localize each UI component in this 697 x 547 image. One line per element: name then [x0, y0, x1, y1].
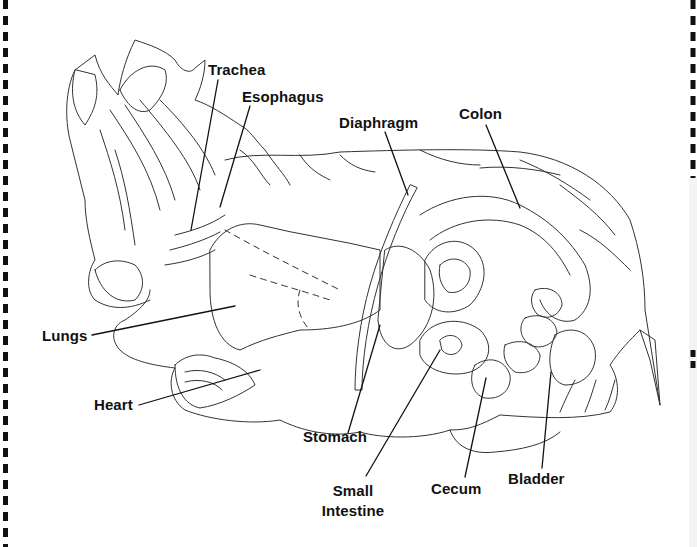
diaphragm-leader: [385, 132, 408, 195]
label-small-intestine-line2: Intestine: [313, 502, 393, 519]
lungs-leader: [92, 306, 235, 335]
heart-leader: [139, 370, 260, 405]
stomach-leader: [348, 325, 380, 433]
cecum-leader: [465, 378, 486, 477]
label-lungs: Lungs: [42, 327, 88, 344]
label-stomach: Stomach: [303, 428, 367, 445]
esophagus-leader: [220, 106, 250, 207]
label-heart: Heart: [94, 396, 133, 413]
label-bladder: Bladder: [508, 470, 565, 487]
small-intestine-leader: [366, 350, 440, 476]
label-trachea: Trachea: [208, 61, 265, 78]
leader-lines: [0, 0, 697, 547]
label-diaphragm: Diaphragm: [339, 114, 418, 131]
label-small-intestine-line1: Small: [318, 482, 388, 499]
label-esophagus: Esophagus: [242, 88, 324, 105]
label-colon: Colon: [459, 105, 502, 122]
colon-leader: [486, 125, 520, 208]
bladder-leader: [542, 372, 551, 468]
trachea-leader: [191, 80, 218, 230]
label-cecum: Cecum: [431, 480, 482, 497]
